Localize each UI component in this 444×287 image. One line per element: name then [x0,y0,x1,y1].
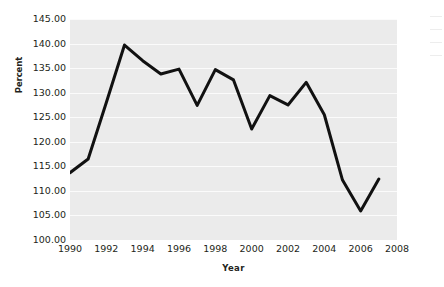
line-chart-figure: Percent 145.00140.00135.00130.00125.0012… [0,0,444,287]
scan-artifact-marks [430,16,442,74]
x-tick-label-1992: 1992 [86,243,126,255]
y-tick-label-115.00: 115.00 [26,161,66,171]
x-tick-label-2004: 2004 [304,243,344,255]
y-tick-label-140.00: 140.00 [26,39,66,49]
x-tick-label-1990: 1990 [50,243,90,255]
y-tick-label-110.00: 110.00 [26,186,66,196]
y-tick-label-135.00: 135.00 [26,63,66,73]
series-line-percent [70,45,379,211]
y-tick-label-120.00: 120.00 [26,137,66,147]
x-tick-label-1996: 1996 [159,243,199,255]
x-tick-label-1998: 1998 [195,243,235,255]
y-tick-label-145.00: 145.00 [26,14,66,24]
x-tick-label-2002: 2002 [268,243,308,255]
x-tick-label-1994: 1994 [123,243,163,255]
x-tick-label-2008: 2008 [377,243,417,255]
y-tick-label-105.00: 105.00 [26,210,66,220]
y-tick-label-125.00: 125.00 [26,112,66,122]
y-tick-label-130.00: 130.00 [26,88,66,98]
plot-area [70,19,397,240]
x-axis-tick-labels: 1990199219941996199820002002200420062008 [70,243,397,257]
x-tick-label-2000: 2000 [232,243,272,255]
y-axis-tick-labels: 145.00140.00135.00130.00125.00120.00115.… [26,14,66,241]
data-series-percent [70,19,397,240]
x-tick-label-2006: 2006 [341,243,381,255]
x-axis-title: Year [70,263,397,273]
